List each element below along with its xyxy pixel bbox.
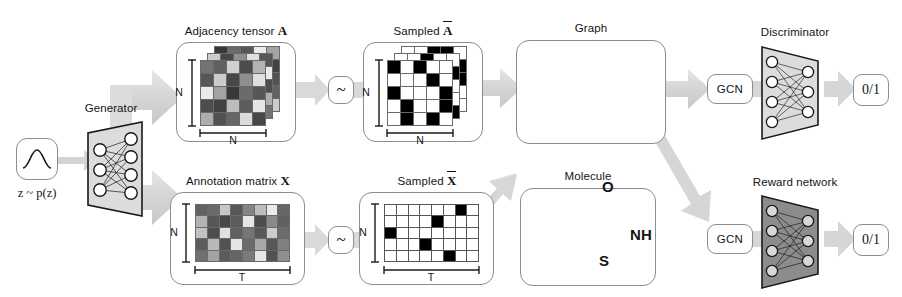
graph-caption: Graph xyxy=(516,22,666,34)
sampled-annotation-cols-label: T xyxy=(424,271,438,283)
molecule-atom-oxygen: O xyxy=(597,178,619,195)
molgan-architecture-figure: z ~ p(z) xyxy=(0,0,902,297)
sampled-annotation-rows-label: N xyxy=(356,226,370,238)
annotation-cols-label: T xyxy=(235,271,249,283)
molecule-atom-sulfur: S xyxy=(594,252,614,269)
annotation-rows-label: N xyxy=(167,226,181,238)
adjacency-cols-label: N xyxy=(226,134,240,146)
sampled-adjacency-caption: Sampled A xyxy=(363,23,483,39)
sampled-adjacency-rows-label: N xyxy=(359,86,373,98)
discriminator-caption: Discriminator xyxy=(740,26,850,38)
adjacency-rows-label: N xyxy=(172,86,186,98)
annotation-caption: Annotation matrix X xyxy=(168,173,308,189)
molecule-caption: Molecule xyxy=(520,170,656,182)
sampled-annotation-caption: Sampled X xyxy=(357,173,497,189)
reward-caption: Reward network xyxy=(733,176,857,188)
adjacency-caption: Adjacency tensor A xyxy=(176,23,296,39)
generator-caption: Generator xyxy=(71,102,151,114)
captions: Generator Adjacency tensor A Sampled A A… xyxy=(0,0,902,297)
molecule-atom-nitrogen: NH xyxy=(626,226,656,243)
sampled-adjacency-cols-label: N xyxy=(413,134,427,146)
